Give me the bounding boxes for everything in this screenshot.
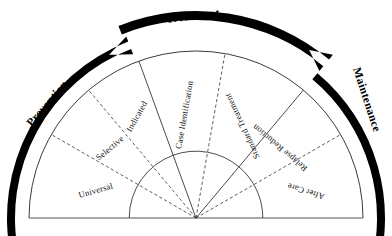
figure-canvas: UniversalSelectiveIndicatedCase Identifi… [0, 0, 392, 236]
phase-arrows [7, 11, 385, 236]
semicircle-spectrum-diagram: UniversalSelectiveIndicatedCase Identifi… [0, 0, 392, 236]
wedge-label-case-identification: Case Identification [173, 80, 195, 150]
divider-after-relapse-reduction [196, 135, 341, 219]
divider-after-case-identification [196, 54, 225, 218]
treatment-arrow [118, 11, 332, 71]
wedge-label-universal: Universal [77, 180, 114, 199]
treatment-inner-arc [173, 151, 239, 167]
maintenance-inner-arc [239, 167, 263, 218]
prevention-arrow [7, 36, 133, 236]
phase-label-treatment: Treatment [165, 6, 220, 24]
maintenance-arrow [312, 73, 385, 236]
wedge-label-selective: Selective [94, 133, 126, 162]
phase-labels: PreventionTreatmentMaintenance [24, 6, 383, 133]
wedge-label-relapse-reduction: Relapse Reduction [250, 122, 309, 174]
phase-label-prevention: Prevention [24, 78, 70, 129]
group-boundary-arcs [129, 151, 263, 218]
wedge-label-indicated: Indicated [124, 99, 149, 134]
wedge-labels: UniversalSelectiveIndicatedCase Identifi… [77, 80, 325, 202]
wedge-label-after-care: After Care [286, 181, 326, 202]
